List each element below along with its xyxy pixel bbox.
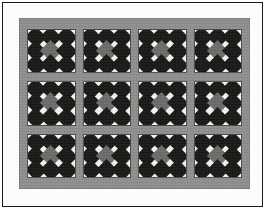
block-r1c3 (138, 29, 187, 73)
block-r3c3 (138, 134, 187, 178)
block-r3c1 (27, 134, 76, 178)
dark-diamond-9 (59, 111, 75, 125)
patch-grid (139, 82, 186, 124)
dark-diamond-9 (115, 111, 131, 125)
block-r1c2 (83, 29, 132, 73)
dark-diamond-9 (59, 58, 75, 72)
patch-grid (139, 30, 186, 72)
patch-grid (139, 135, 186, 177)
patch-grid (84, 135, 131, 177)
dark-diamond-9 (170, 58, 186, 72)
patch-grid (84, 82, 131, 124)
block-r3c2 (83, 134, 132, 178)
dark-diamond-9 (226, 111, 242, 125)
patch-grid (84, 30, 131, 72)
quilt (19, 18, 250, 189)
dark-diamond-9 (226, 163, 242, 177)
patch-grid (195, 82, 242, 124)
dark-diamond-9 (115, 163, 131, 177)
block-r3c4 (194, 134, 243, 178)
quilt-image-canvas: Nine-Patch Diamond Quilt (0, 0, 267, 211)
patch-grid (195, 135, 242, 177)
block-r2c4 (194, 81, 243, 125)
block-r1c4 (194, 29, 243, 73)
patch-grid (28, 82, 75, 124)
dark-diamond-9 (226, 58, 242, 72)
dark-diamond-9 (170, 111, 186, 125)
block-r1c1 (27, 29, 76, 73)
dark-diamond-9 (170, 163, 186, 177)
dark-diamond-9 (115, 58, 131, 72)
patch-grid (28, 135, 75, 177)
patch-grid (195, 30, 242, 72)
dark-diamond-9 (59, 163, 75, 177)
block-r2c1 (27, 81, 76, 125)
block-r2c3 (138, 81, 187, 125)
quilt-block-grid (27, 29, 242, 178)
block-r2c2 (83, 81, 132, 125)
outer-photo-frame (2, 2, 263, 207)
patch-grid (28, 30, 75, 72)
